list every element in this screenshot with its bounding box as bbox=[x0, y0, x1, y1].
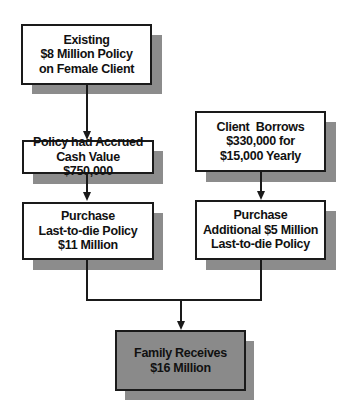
node-text-line: $11 Million bbox=[58, 238, 118, 253]
node-purchase-5m: Purchase Additional $5 Million Last-to-d… bbox=[195, 200, 326, 260]
node-text-line: $15,000 Yearly bbox=[220, 149, 301, 164]
node-text-line: Policy had Accrued bbox=[33, 135, 143, 150]
node-text-line: Purchase bbox=[61, 209, 115, 224]
node-text-line: Last-to-die Policy bbox=[39, 224, 138, 239]
node-text-line: on Female Client bbox=[39, 62, 134, 77]
connector-line bbox=[86, 85, 88, 132]
node-client-borrows: Client Borrows $330,000 for $15,000 Year… bbox=[195, 111, 326, 172]
connector-line bbox=[180, 301, 182, 322]
connector-line bbox=[260, 172, 262, 192]
node-purchase-11m: Purchase Last-to-die Policy $11 Million bbox=[22, 202, 154, 260]
arrowhead-icon bbox=[257, 191, 265, 200]
arrowhead-icon bbox=[83, 192, 91, 201]
node-family-receives: Family Receives $16 Million bbox=[115, 330, 246, 391]
node-existing-policy: Existing $8 Million Policy on Female Cli… bbox=[21, 24, 152, 85]
node-text-line: $8 Million Policy bbox=[40, 47, 132, 62]
node-text-line: Existing bbox=[63, 33, 109, 48]
node-text-line: Purchase bbox=[234, 208, 288, 223]
node-text-line: Last-to-die Policy bbox=[211, 237, 310, 252]
node-text-line: $16 Million bbox=[150, 361, 211, 376]
node-text-line: Client Borrows bbox=[217, 120, 305, 135]
connector-line bbox=[260, 260, 262, 301]
node-text-line: $330,000 for bbox=[226, 134, 295, 149]
connector-line bbox=[86, 174, 88, 193]
connector-line bbox=[86, 260, 88, 301]
node-text-line: Family Receives bbox=[134, 346, 227, 361]
node-cash-value: Policy had Accrued Cash Value $750,000 bbox=[22, 140, 154, 174]
arrowhead-icon bbox=[177, 321, 185, 330]
node-text-line: Additional $5 Million bbox=[203, 223, 318, 238]
connector-line bbox=[86, 299, 262, 301]
node-text-line: $750,000 bbox=[63, 164, 113, 179]
node-text-line: Cash Value bbox=[56, 150, 120, 165]
